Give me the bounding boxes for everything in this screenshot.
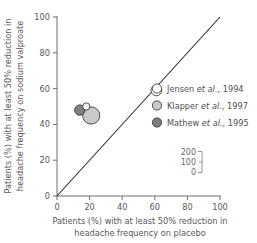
x-axis-ticks xyxy=(57,196,220,200)
size-scale-label-200: 200 xyxy=(181,148,196,157)
x-tick-label-60: 60 xyxy=(150,202,160,212)
legend-label-mathew: Mathew et al., 1995 xyxy=(167,118,249,128)
bubble-size-scale: 200 100 0 xyxy=(181,148,202,177)
x-axis-title-line1: Patients (%) with at least 50% reduction… xyxy=(52,216,227,226)
legend-swatch-jensen xyxy=(152,84,161,93)
legend-swatch-klapper xyxy=(152,101,161,110)
y-tick-label-0: 0 xyxy=(45,191,50,201)
y-tick-label-40: 40 xyxy=(40,119,50,129)
size-scale-label-100: 100 xyxy=(181,158,196,167)
x-tick-label-40: 40 xyxy=(117,202,127,212)
legend: Jensen et al., 1994 Klapper et al., 1997… xyxy=(152,84,248,128)
bubble-chart: 0 20 40 60 80 100 0 20 40 60 80 100 xyxy=(0,0,257,243)
legend-label-jensen: Jensen et al., 1994 xyxy=(166,84,244,94)
legend-label-klapper: Klapper et al., 1997 xyxy=(167,101,248,111)
y-tick-label-20: 20 xyxy=(40,155,50,165)
y-axis-title-line1: Patients (%) with at least 50% reduction… xyxy=(3,18,13,193)
y-tick-label-80: 80 xyxy=(40,48,50,58)
data-bubble-jensen-small xyxy=(83,103,90,110)
legend-swatch-mathew xyxy=(152,118,161,127)
y-axis-title-line2: headache frequency on sodium valproate xyxy=(15,21,25,192)
x-tick-label-20: 20 xyxy=(84,202,94,212)
x-tick-label-100: 100 xyxy=(212,202,228,212)
y-axis-ticks xyxy=(53,17,57,196)
chart-canvas: 0 20 40 60 80 100 0 20 40 60 80 100 xyxy=(0,0,257,243)
y-tick-label-100: 100 xyxy=(34,12,50,22)
size-scale-label-0: 0 xyxy=(191,168,196,177)
x-axis-title-line2: headache frequency on placebo xyxy=(74,228,206,238)
x-tick-label-0: 0 xyxy=(54,202,59,212)
y-tick-label-60: 60 xyxy=(40,84,50,94)
x-tick-label-80: 80 xyxy=(182,202,192,212)
